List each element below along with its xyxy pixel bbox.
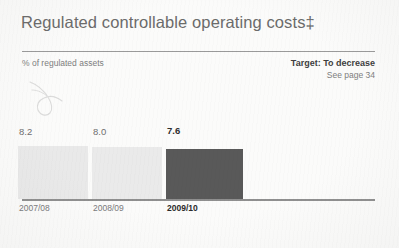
bar-value-2007-08: 8.2 bbox=[19, 126, 32, 137]
bar-category-2008-09: 2008/09 bbox=[93, 203, 124, 213]
bar-category-2009-10: 2009/10 bbox=[167, 203, 198, 213]
bar-2007-08 bbox=[18, 146, 88, 199]
bar-category-2007-08: 2007/08 bbox=[19, 203, 50, 213]
chart-card: Regulated controllable operating costs‡ … bbox=[0, 0, 399, 248]
baseline-axis bbox=[22, 199, 375, 201]
plot-area: 8.2 2007/08 8.0 2008/09 7.6 2009/10 bbox=[0, 0, 399, 248]
bar-value-2009-10: 7.6 bbox=[167, 125, 180, 136]
bar-value-2008-09: 8.0 bbox=[93, 126, 106, 137]
bar-2008-09 bbox=[92, 147, 162, 199]
bar-2009-10 bbox=[166, 149, 243, 199]
